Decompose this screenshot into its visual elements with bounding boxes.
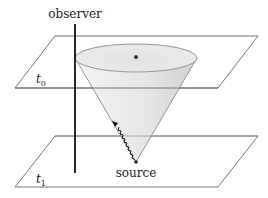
t1-label: t1 (36, 172, 46, 188)
source-dot (134, 160, 138, 164)
t0-label: t0 (36, 72, 46, 88)
source-label: source (116, 166, 157, 180)
light-cone-body (75, 58, 197, 162)
observer-label: observer (48, 7, 102, 21)
cone-center-dot (134, 55, 138, 59)
light-cone-diagram: observer t0 t1 source (0, 0, 268, 198)
